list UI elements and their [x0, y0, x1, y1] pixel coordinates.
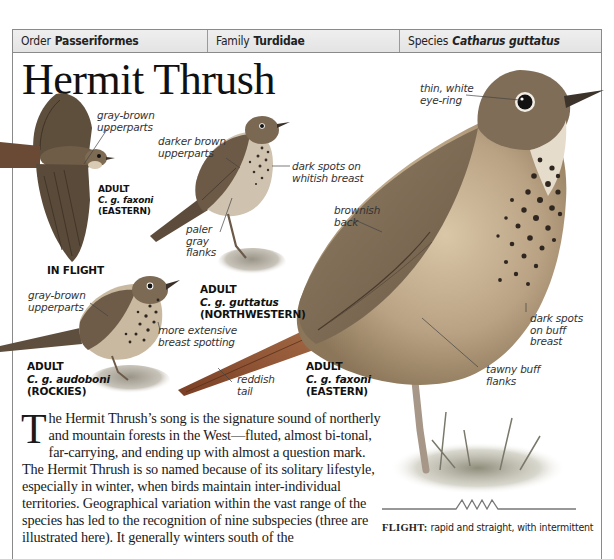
annotation-line: flanks	[186, 247, 216, 259]
annotation-faxoni-tail: reddish tail	[237, 374, 275, 397]
annotation-line: dark spots	[530, 313, 583, 325]
label-faxoni: ADULT C. g. faxoni (EASTERN)	[306, 360, 371, 398]
annotation-line: flanks	[486, 376, 540, 388]
annotation-faxoni-eye: thin, white eye-ring	[420, 83, 474, 106]
label-kind: ADULT	[200, 283, 306, 296]
annotation-line: gray-brown	[97, 110, 155, 122]
annotation-line: paler	[186, 224, 216, 236]
label-scientific-name: C. g. faxoni	[306, 373, 371, 386]
annotation-line: eye-ring	[420, 95, 474, 107]
flight-description: FLIGHT: rapid and straight, with intermi…	[382, 521, 593, 533]
label-region: (NORTHWESTERN)	[200, 308, 306, 321]
annotation-line: tail	[237, 386, 275, 398]
family-label: Family	[216, 34, 249, 48]
annotation-flight-upperparts: gray-brown upperparts	[97, 110, 155, 133]
annotation-faxoni-breast: dark spots on buff breast	[530, 313, 583, 348]
order-label: Order	[21, 34, 51, 48]
family-value: Turdidae	[253, 34, 304, 48]
label-scientific-name: C. g. faxoni	[98, 195, 153, 206]
annotation-line: upperparts	[97, 122, 155, 134]
annotation-line: upperparts	[158, 148, 226, 160]
label-kind: ADULT	[27, 360, 110, 373]
species-label: Species	[408, 34, 448, 48]
label-kind: ADULT	[306, 360, 371, 373]
annotation-guttatus-upperparts: darker brown upperparts	[158, 136, 226, 159]
annotation-line: breast	[530, 336, 583, 348]
species-cell: Species Catharus guttatus	[399, 30, 601, 52]
order-cell: Order Passeriformes	[13, 30, 207, 52]
annotation-line: dark spots on	[292, 161, 363, 173]
label-audoboni: ADULT C. g. audoboni (ROCKIES)	[27, 360, 110, 398]
label-kind: ADULT	[98, 184, 153, 195]
annotation-line: breast spotting	[158, 337, 237, 349]
label-scientific-name: C. g. guttatus	[200, 296, 306, 309]
label-flight-subspecies: ADULT C. g. faxoni (EASTERN)	[98, 184, 153, 217]
annotation-faxoni-back: brownish back	[334, 205, 380, 228]
annotation-line: brownish	[334, 205, 380, 217]
flight-pattern-diagram	[382, 496, 592, 516]
species-description: The Hermit Thrush’s song is the signatur…	[22, 410, 382, 546]
description-text: he Hermit Thrush’s song is the signature…	[22, 410, 381, 545]
label-scientific-name: C. g. audoboni	[27, 373, 110, 386]
label-region: (EASTERN)	[98, 206, 153, 217]
annotation-line: darker brown	[158, 136, 226, 148]
annotation-line: reddish	[237, 374, 275, 386]
annotation-line: gray-brown	[28, 290, 86, 302]
annotation-line: tawny buff	[486, 364, 540, 376]
order-value: Passeriformes	[55, 34, 139, 48]
taxonomy-header: Order Passeriformes Family Turdidae Spec…	[12, 29, 602, 53]
annotation-line: back	[334, 217, 380, 229]
flight-text: rapid and straight, with intermittent	[430, 521, 593, 533]
annotation-line: whitish breast	[292, 173, 363, 185]
annotation-guttatus-flanks: paler gray flanks	[186, 224, 216, 259]
dropcap: T	[21, 413, 47, 445]
annotation-guttatus-breast: dark spots on whitish breast	[292, 161, 363, 184]
label-guttatus: ADULT C. g. guttatus (NORTHWESTERN)	[200, 283, 306, 321]
species-value: Catharus guttatus	[452, 34, 559, 48]
annotation-line: upperparts	[28, 302, 86, 314]
family-cell: Family Turdidae	[207, 30, 399, 52]
annotation-audoboni-breast: more extensive breast spotting	[158, 325, 237, 348]
annotation-faxoni-flanks: tawny buff flanks	[486, 364, 540, 387]
annotation-audoboni-upperparts: gray-brown upperparts	[28, 290, 86, 313]
label-in-flight: IN FLIGHT	[47, 264, 104, 277]
annotation-line: more extensive	[158, 325, 237, 337]
page-title: Hermit Thrush	[22, 58, 275, 102]
flight-label: FLIGHT:	[382, 522, 428, 533]
in-flight-caption: IN FLIGHT	[47, 264, 104, 276]
annotation-line: thin, white	[420, 83, 474, 95]
label-region: (EASTERN)	[306, 385, 371, 398]
label-region: (ROCKIES)	[27, 385, 110, 398]
